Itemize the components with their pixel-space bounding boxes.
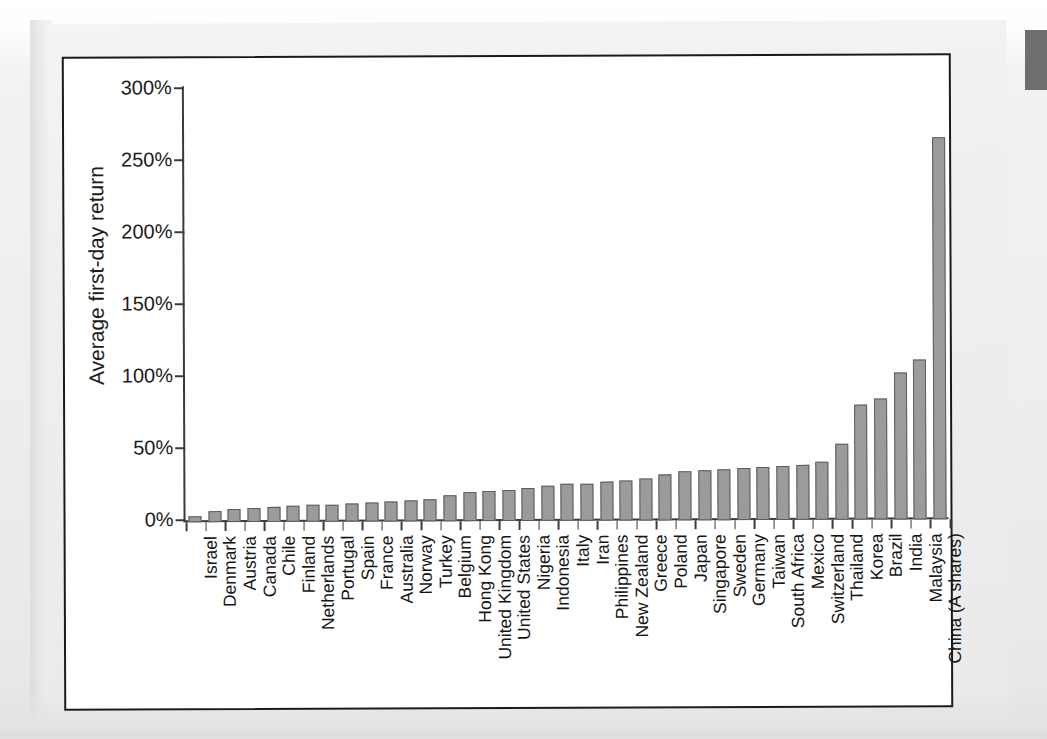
y-axis-tick (175, 375, 185, 377)
bar (678, 471, 691, 520)
y-axis-tick-label: 0% (77, 509, 173, 529)
x-axis-tick-label: Philippines (614, 535, 632, 620)
x-axis-tick (773, 520, 775, 529)
x-axis-tick-labels: IsraelDenmarkAustriaCanadaChileFinlandNe… (64, 55, 949, 58)
x-axis-tick-label: Sweden (731, 534, 749, 597)
x-axis-tick-label: Malaysia (927, 533, 945, 602)
y-axis-tick (176, 519, 186, 521)
bar-slot (773, 466, 793, 520)
x-axis-tick-label: Singapore (712, 534, 730, 614)
x-axis-tick-label: Italy (575, 535, 593, 567)
y-axis-tick-label: 250% (76, 149, 172, 169)
y-axis-tick-labels: 0%50%100%150%200%250%300% (64, 58, 174, 708)
bar (776, 466, 789, 520)
bar-series (184, 85, 950, 522)
bar (835, 443, 848, 519)
bar (248, 508, 261, 522)
x-axis-tick-label: Thailand (849, 534, 867, 601)
x-axis-tick-label: Netherlands (320, 536, 338, 630)
x-axis-tick (558, 521, 560, 530)
x-axis-tick (519, 521, 521, 530)
x-axis-tick (930, 519, 932, 528)
x-axis-tick-label: Norway (418, 535, 436, 594)
x-axis-tick-label: South Africa (790, 534, 808, 628)
bar (932, 138, 946, 520)
bar (600, 482, 613, 521)
bar (639, 478, 652, 521)
x-axis-tick-label: Taiwan (770, 534, 788, 589)
bar-slot (381, 501, 401, 521)
x-axis-tick (636, 521, 638, 530)
x-axis-ticks (64, 55, 949, 58)
x-axis-tick-label: Belgium (457, 535, 475, 598)
bar-slot (616, 480, 636, 520)
bar (522, 488, 535, 521)
x-axis-tick (950, 519, 952, 528)
bar (580, 483, 593, 520)
bar-slot (303, 505, 323, 522)
bar-slot (323, 504, 343, 521)
x-axis-tick (812, 520, 814, 529)
bar-slot (910, 360, 930, 520)
bar-slot (244, 508, 264, 522)
x-axis-tick (695, 520, 697, 529)
bar (365, 503, 378, 522)
bar-slot (186, 516, 206, 523)
bar-slot (283, 506, 303, 522)
y-axis-tick (174, 87, 184, 89)
bar (854, 404, 867, 519)
x-axis-tick-label: Switzerland (829, 534, 847, 625)
x-axis-tick (891, 520, 893, 529)
x-axis-tick-label: Austria (242, 536, 260, 591)
bar (424, 499, 437, 521)
x-axis-tick (186, 522, 188, 531)
x-axis-tick (225, 522, 227, 531)
bar-slot (675, 471, 695, 520)
x-axis-tick-label: Brazil (888, 533, 906, 577)
x-axis-tick-label: Nigeria (535, 535, 553, 591)
x-axis-tick (205, 522, 207, 531)
x-axis-tick (656, 520, 658, 529)
x-axis-tick (714, 520, 716, 529)
bar (443, 495, 456, 521)
x-axis-tick (793, 520, 795, 529)
x-axis-tick (479, 521, 481, 530)
bar (385, 501, 398, 521)
x-axis-tick-label: Spain (359, 536, 377, 581)
bar-slot (401, 500, 421, 521)
x-axis-tick-label: Hong Kong (477, 535, 495, 623)
bar (306, 505, 319, 522)
bar-slot (264, 507, 284, 522)
bar-slot (928, 138, 949, 520)
x-axis-tick (323, 522, 325, 531)
y-axis-tick-label: 100% (77, 365, 173, 385)
x-axis-tick-label: India (908, 533, 926, 571)
x-axis-tick (499, 521, 501, 530)
bar (913, 360, 927, 520)
bar (541, 486, 554, 521)
bar-slot (871, 399, 891, 520)
x-axis-tick-label: Iran (594, 535, 612, 565)
x-axis-tick-label: Indonesia (555, 535, 573, 611)
x-axis-tick (381, 521, 383, 530)
x-axis-tick-label: Greece (653, 534, 671, 591)
x-axis-tick (264, 522, 266, 531)
x-axis-tick-label: France (379, 535, 397, 590)
x-axis-tick (460, 521, 462, 530)
bar-slot (538, 486, 558, 521)
x-axis-tick (675, 520, 677, 529)
x-axis-tick-label: China (A shares) (947, 533, 965, 663)
plot-area (184, 83, 950, 522)
bar-slot (577, 483, 597, 521)
y-axis-tick (175, 447, 185, 449)
y-axis-tick (174, 159, 184, 161)
x-axis-tick-label: Chile (281, 536, 299, 576)
x-axis-tick (832, 520, 834, 529)
x-axis-tick-label: United States (516, 535, 534, 640)
bar (483, 491, 496, 521)
bar (561, 484, 574, 521)
chart-frame: Average first-day return 0%50%100%150%20… (62, 53, 954, 710)
bar-slot (205, 511, 225, 522)
bar (737, 468, 750, 520)
bar (267, 507, 280, 522)
